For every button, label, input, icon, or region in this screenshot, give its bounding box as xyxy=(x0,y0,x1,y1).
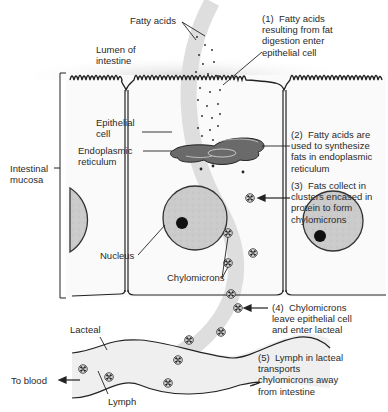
chylomicron xyxy=(174,356,182,364)
step-4: (4) Chylomicrons leave epithelial cell a… xyxy=(272,302,352,336)
label-lumen: Lumen of intestine xyxy=(96,44,136,66)
chylomicron xyxy=(185,336,193,344)
chylomicron xyxy=(105,373,113,381)
chylomicron xyxy=(234,304,242,312)
label-intestinal-mucosa: Intestinal mucosa xyxy=(10,163,48,185)
step-3: (3) Fats collect in clusters encased in … xyxy=(291,180,372,225)
mucosa-bracket xyxy=(60,73,66,298)
chylomicron xyxy=(224,229,232,237)
nucleolus-center xyxy=(176,217,188,229)
nucleolus-right xyxy=(314,230,326,242)
step-2: (2) Fatty acids are used to synthesize f… xyxy=(291,129,372,174)
chylomicron xyxy=(217,328,225,336)
label-fatty-acids: Fatty acids xyxy=(130,15,176,26)
label-epithelial-cell: Epithelial cell xyxy=(96,117,135,139)
step-1: (1) Fatty acids resulting from fat diges… xyxy=(262,13,333,58)
label-lacteal: Lacteal xyxy=(70,324,101,335)
chylomicron xyxy=(246,194,254,202)
label-endoplasmic-reticulum: Endoplasmic reticulum xyxy=(78,145,132,167)
chylomicron xyxy=(249,249,257,257)
chylomicron xyxy=(79,365,87,373)
arrow-step4-head xyxy=(244,305,251,311)
label-nucleus: Nucleus xyxy=(100,250,134,261)
step-5: (5) Lymph in lacteal transports chylomic… xyxy=(258,352,343,397)
nucleus-center xyxy=(163,186,227,250)
arrow-to-blood-head xyxy=(59,377,66,383)
chylomicron xyxy=(227,290,235,298)
label-lymph: Lymph xyxy=(108,396,136,407)
chylomicron xyxy=(164,379,172,387)
label-to-blood: To blood xyxy=(11,375,47,386)
label-chylomicrons: Chylomicrons xyxy=(167,272,225,283)
